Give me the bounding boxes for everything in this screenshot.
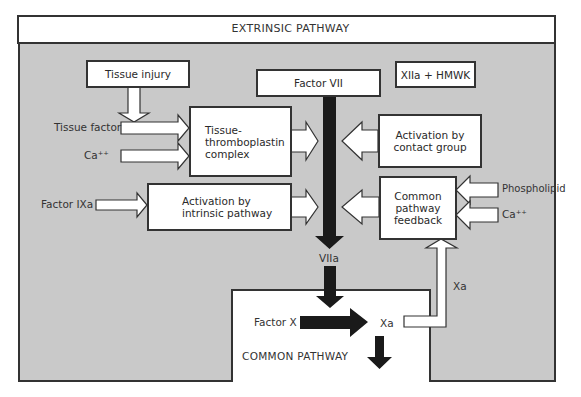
xiia-hmwk-label: XIIa + HMWK bbox=[401, 69, 471, 81]
common-pathway-feedback-box: Common pathway feedback bbox=[379, 176, 457, 240]
xiia-hmwk-box: XIIa + HMWK bbox=[395, 61, 476, 88]
xa-product-label: Xa bbox=[380, 317, 394, 329]
complex-line-2: thromboplastin bbox=[205, 136, 285, 148]
intrinsic-line-1: Activation by bbox=[182, 195, 272, 207]
xa-to-common-arrow bbox=[367, 336, 392, 369]
viia-label: VIIa bbox=[319, 252, 339, 264]
ca-right-label: Ca⁺⁺ bbox=[502, 208, 527, 220]
phospholipid-arrow bbox=[456, 176, 498, 204]
phospholipid-label: Phospholipid bbox=[502, 183, 566, 194]
feedback-line-3: feedback bbox=[394, 214, 442, 226]
tissue-injury-label: Tissue injury bbox=[105, 68, 171, 80]
factor-vii-box: Factor VII bbox=[256, 69, 381, 97]
xa-feedback-arrow bbox=[404, 239, 457, 327]
complex-line-3: complex bbox=[205, 148, 285, 160]
common-pathway-title: COMMON PATHWAY bbox=[242, 350, 348, 362]
intrinsic-to-center-arrow bbox=[291, 190, 318, 224]
factor-ixa-arrow bbox=[96, 193, 147, 217]
intrinsic-line-2: intrinsic pathway bbox=[182, 207, 272, 219]
tissue-thromboplastin-complex-box: Tissue- thromboplastin complex bbox=[189, 106, 292, 177]
complex-to-center-arrow bbox=[291, 122, 318, 160]
factor-x-label: Factor X bbox=[254, 316, 297, 328]
contact-to-center-arrow bbox=[342, 122, 378, 160]
complex-line-1: Tissue- bbox=[205, 124, 285, 136]
feedback-to-center-arrow bbox=[342, 190, 379, 224]
contact-group-line-2: contact group bbox=[393, 141, 466, 153]
contact-group-line-1: Activation by bbox=[393, 129, 466, 141]
feedback-line-1: Common bbox=[394, 190, 442, 202]
ca-right-arrow bbox=[456, 201, 498, 229]
activation-by-contact-group-box: Activation by contact group bbox=[378, 114, 482, 168]
ca-left-arrow bbox=[121, 143, 189, 169]
tissue-factor-label: Tissue factor bbox=[54, 121, 121, 133]
ca-left-label: Ca⁺⁺ bbox=[84, 149, 109, 161]
factor-vii-to-viia-arrow bbox=[315, 96, 344, 249]
factor-ixa-label: Factor IXa bbox=[41, 198, 93, 210]
tissue-injury-arrow bbox=[119, 87, 149, 122]
factor-vii-label: Factor VII bbox=[294, 77, 343, 89]
feedback-line-2: pathway bbox=[394, 202, 442, 214]
viia-to-factor-x-arrow bbox=[316, 266, 344, 308]
tissue-injury-box: Tissue injury bbox=[86, 60, 190, 88]
activation-by-intrinsic-pathway-box: Activation by intrinsic pathway bbox=[147, 183, 292, 231]
xa-feedback-label: Xa bbox=[453, 280, 467, 292]
factor-x-to-xa-arrow bbox=[300, 308, 368, 337]
